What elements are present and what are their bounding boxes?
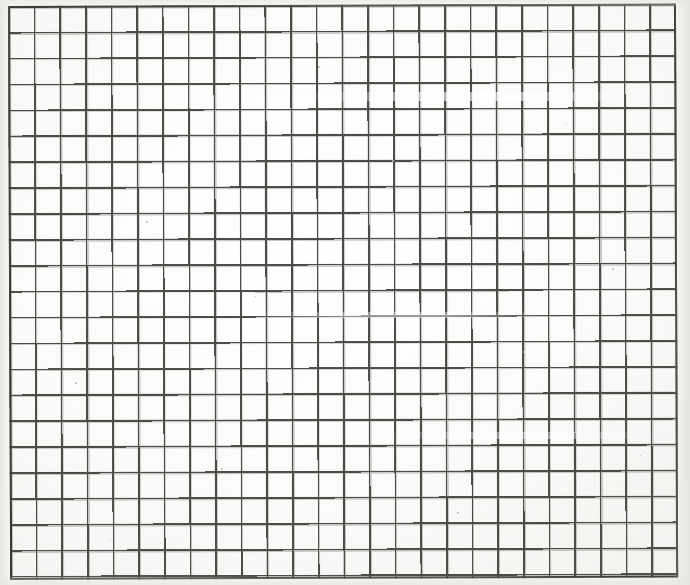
scanned-document-page (0, 0, 690, 585)
grid-minor-lines (8, 3, 678, 580)
grid-paper-block (8, 3, 678, 580)
